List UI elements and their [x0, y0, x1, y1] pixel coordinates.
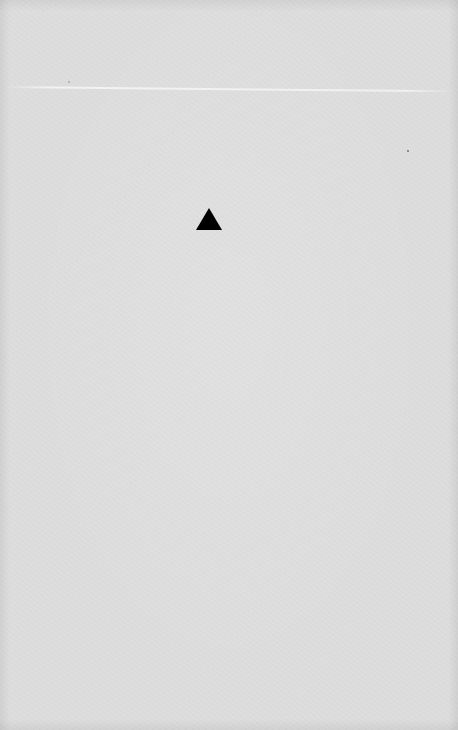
- paper-crease: [4, 86, 454, 92]
- triangle-up-icon: [196, 208, 222, 230]
- dust-speck: [407, 150, 409, 152]
- dust-speck: [68, 81, 70, 83]
- paper-texture: [0, 0, 458, 730]
- scanned-page: [0, 0, 458, 730]
